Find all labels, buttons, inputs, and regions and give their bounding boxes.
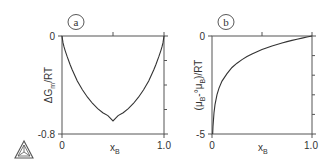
panel-b-x-tick-left: 0 [209, 140, 215, 151]
panel-b-curve [213, 36, 312, 134]
panel-b-badge-label: b [223, 16, 229, 28]
panel-a-curve [62, 36, 164, 121]
panel-a-y-axis-label: ΔGm/RT [43, 67, 56, 103]
panel-a-x-tick-left: 0 [59, 140, 65, 151]
panel-b-badge: b [218, 15, 234, 30]
panel-b-y-tick-bottom: -5 [196, 129, 205, 140]
panel-a-y-tick-top: 0 [49, 31, 55, 42]
panel-a-badge: a [68, 15, 84, 30]
panel-a: a 0 -0.8 0 1.0 xB ΔGm/RT [38, 15, 172, 156]
panel-a-badge-label: a [74, 16, 79, 28]
panel-b-y-axis-label: (μB-°μB)/RT [193, 60, 206, 111]
panel-a-x-axis-label: xB [110, 142, 120, 155]
thermocalc-triangle-logo-icon [15, 141, 33, 158]
panel-a-x-tick-right: 1.0 [157, 140, 171, 151]
figure: a 0 -0.8 0 1.0 xB ΔGm/RT [0, 0, 331, 166]
panel-a-plot-frame [62, 36, 164, 134]
panel-b-x-tick-right: 1.0 [304, 140, 318, 151]
panel-b: b 0 -5 0 1.0 xB (μB-°μB)/RT [193, 15, 318, 156]
panel-a-y-tick-bottom: -0.8 [38, 129, 56, 140]
panel-b-y-tick-top: 0 [199, 31, 205, 42]
panel-b-plot-frame [212, 36, 312, 134]
panel-b-x-axis-label: xB [258, 142, 268, 155]
